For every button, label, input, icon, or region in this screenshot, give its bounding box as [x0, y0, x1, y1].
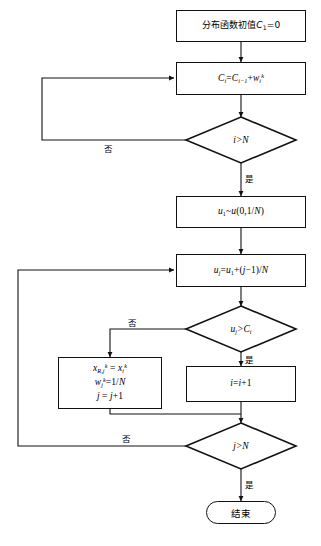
edge-label-j-gt-n-no: 否	[122, 432, 131, 444]
node-cumulative-sum: Ci=Ci−1+wik	[176, 62, 306, 95]
assign-line-weight: wjk=1/N	[59, 376, 161, 390]
node-compute-uj: uj=u1+(j−1)/N	[176, 254, 306, 287]
node-decision-i-gt-n-label: i>N	[233, 135, 248, 145]
edge-label-i-gt-n-no: 否	[104, 142, 113, 154]
node-sample-u1-label: u1~u(0,1/N)	[218, 206, 264, 218]
node-cumulative-sum-label: Ci=Ci−1+wik	[218, 73, 264, 85]
node-decision-j-gt-n-label: j>N	[233, 441, 248, 451]
node-init-distribution: 分布函数初值C1=0	[176, 10, 306, 42]
node-end-terminal: 结束	[206, 501, 276, 524]
edge-label-j-gt-n-yes: 是	[245, 478, 254, 490]
node-compute-uj-label: uj=u1+(j−1)/N	[214, 265, 268, 277]
node-end-terminal-label: 结束	[231, 506, 251, 520]
assign-line-increment-j: j = j+1	[59, 390, 161, 404]
edge-label-uj-gt-ci-yes: 是	[245, 353, 254, 365]
node-decision-uj-gt-ci-label: uj>Ci	[231, 324, 252, 334]
assign-line-state: xR,jk = xik	[59, 362, 161, 376]
node-decision-j-gt-n: j>N	[186, 423, 296, 469]
node-decision-uj-gt-ci: uj>Ci	[186, 306, 296, 352]
node-decision-i-gt-n: i>N	[186, 117, 296, 163]
node-increment-i-label: i=i+1	[230, 378, 251, 390]
edge-label-i-gt-n-yes: 是	[245, 172, 254, 184]
node-sample-u1: u1~u(0,1/N)	[176, 196, 306, 228]
node-assign-resampled-particle: xR,jk = xik wjk=1/N j = j+1	[58, 357, 162, 409]
node-increment-i: i=i+1	[186, 366, 296, 402]
flowchart-canvas: 分布函数初值C1=0 Ci=Ci−1+wik i>N u1~u(0,1/N) u…	[0, 0, 321, 546]
edge-label-uj-gt-ci-no: 否	[128, 316, 137, 328]
node-init-distribution-label: 分布函数初值C1=0	[202, 20, 281, 31]
